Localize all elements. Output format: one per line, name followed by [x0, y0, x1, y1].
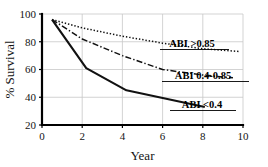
tick-label-x-10: 10	[238, 130, 250, 142]
tick-label-x-8: 8	[200, 130, 206, 142]
x-axis-title: Year	[131, 148, 156, 163]
series-label-abi-mid: ABI 0.4-0.85	[175, 70, 231, 81]
tick-label-y-80: 80	[25, 36, 37, 48]
y-axis-tick-labels: 20406080100	[20, 8, 37, 131]
series-label-abi-low: ABI <0.4	[182, 99, 223, 110]
x-axis-tick-labels: 0246810	[39, 130, 249, 142]
survival-chart: 20406080100 0246810 Year % Survival ABI …	[0, 0, 268, 167]
series-label-abi-high: ABI >0.85	[169, 38, 215, 49]
tick-label-y-40: 40	[25, 91, 37, 103]
tick-label-y-20: 20	[25, 119, 37, 131]
chart-canvas: 20406080100 0246810 Year % Survival ABI …	[0, 0, 268, 167]
tick-label-y-60: 60	[25, 63, 37, 75]
tick-label-y-100: 100	[20, 8, 37, 20]
tick-label-x-2: 2	[79, 130, 85, 142]
tick-label-x-6: 6	[160, 130, 166, 142]
tick-label-x-4: 4	[120, 130, 126, 142]
y-axis-title: % Survival	[2, 40, 17, 99]
tick-label-x-0: 0	[39, 130, 45, 142]
